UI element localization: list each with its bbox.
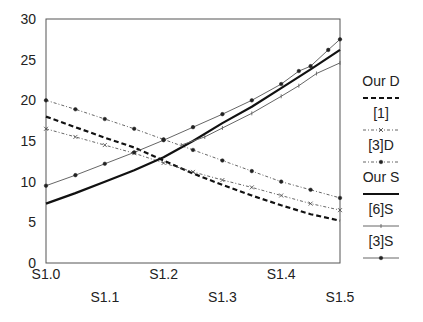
dot-marker-icon bbox=[74, 107, 78, 111]
dot-marker-icon bbox=[338, 196, 342, 200]
legend-item: [3]S bbox=[363, 233, 399, 260]
y-tick-label: 5 bbox=[28, 214, 36, 230]
dot-marker-icon bbox=[132, 127, 136, 131]
y-axis-tick-labels: 051015202530 bbox=[20, 11, 36, 271]
dot-marker-icon bbox=[297, 69, 301, 73]
dot-marker-icon bbox=[132, 151, 136, 155]
y-tick-label: 10 bbox=[20, 174, 36, 190]
dot-marker-icon bbox=[309, 64, 313, 68]
legend-label: Our S bbox=[363, 169, 400, 185]
dot-marker-icon bbox=[191, 125, 195, 129]
x-tick-label: S1.2 bbox=[149, 266, 178, 282]
dot-marker-icon bbox=[221, 112, 225, 116]
legend-item: [6]S bbox=[363, 201, 399, 228]
dot-marker-icon bbox=[103, 162, 107, 166]
legend-item: [3]D bbox=[363, 137, 399, 164]
x-axis-tick-labels: S1.0S1.1S1.2S1.3S1.4S1.5 bbox=[32, 266, 355, 305]
legend-label: [3]S bbox=[369, 233, 394, 249]
dot-marker-icon bbox=[279, 180, 283, 184]
dot-marker-icon bbox=[379, 256, 383, 260]
dot-marker-icon bbox=[379, 160, 383, 164]
dot-marker-icon bbox=[250, 99, 254, 103]
dot-marker-icon bbox=[191, 148, 195, 152]
dot-marker-icon bbox=[44, 99, 48, 103]
x-tick-label: S1.5 bbox=[326, 289, 355, 305]
legend-label: [3]D bbox=[368, 137, 394, 153]
legend-item: Our D bbox=[362, 73, 399, 98]
y-tick-label: 25 bbox=[20, 52, 36, 68]
x-tick-label: S1.1 bbox=[90, 289, 119, 305]
dot-marker-icon bbox=[326, 48, 330, 52]
legend-label: [1] bbox=[373, 105, 389, 121]
dot-marker-icon bbox=[162, 138, 166, 142]
x-tick-label: S1.4 bbox=[267, 266, 296, 282]
dot-marker-icon bbox=[74, 173, 78, 177]
dot-marker-icon bbox=[279, 82, 283, 86]
dot-marker-icon bbox=[44, 184, 48, 188]
dot-marker-icon bbox=[221, 159, 225, 163]
dot-marker-icon bbox=[338, 38, 342, 42]
dot-marker-icon bbox=[250, 169, 254, 173]
legend-item: Our S bbox=[363, 169, 400, 194]
x-tick-label: S1.3 bbox=[208, 289, 237, 305]
legend: Our D[1][3]DOur S[6]S[3]S bbox=[362, 73, 399, 260]
line-chart: 051015202530 S1.0S1.1S1.2S1.3S1.4S1.5 Ou… bbox=[0, 0, 423, 322]
legend-label: [6]S bbox=[369, 201, 394, 217]
dot-marker-icon bbox=[309, 188, 313, 192]
legend-label: Our D bbox=[362, 73, 399, 89]
dot-marker-icon bbox=[103, 117, 107, 121]
legend-item: [1] bbox=[363, 105, 399, 132]
y-tick-label: 15 bbox=[20, 133, 36, 149]
x-tick-label: S1.0 bbox=[32, 266, 61, 282]
y-tick-label: 30 bbox=[20, 11, 36, 27]
y-tick-label: 20 bbox=[20, 92, 36, 108]
